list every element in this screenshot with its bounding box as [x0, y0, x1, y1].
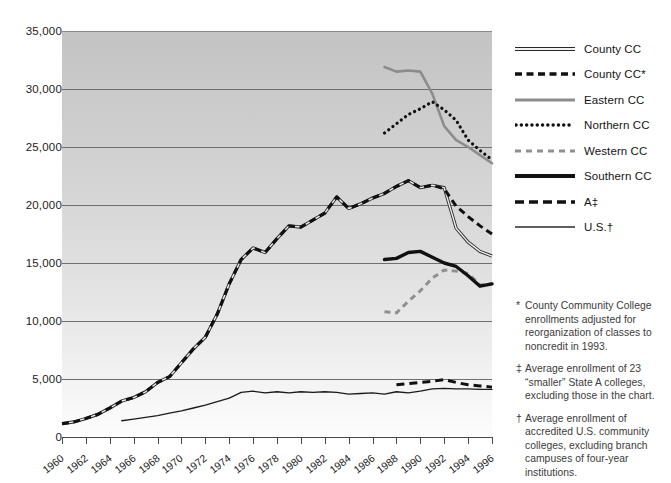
legend-item[interactable]: U.S.† — [515, 215, 665, 241]
legend-item[interactable]: County CC* — [515, 62, 665, 88]
legend-item[interactable]: A‡ — [515, 189, 665, 215]
y-tick-label: 0 — [55, 431, 62, 443]
x-tick — [325, 437, 326, 444]
x-tick-label: 1984 — [327, 452, 353, 476]
x-tick — [492, 437, 493, 444]
dotted-swatch — [515, 119, 575, 131]
series-layer — [62, 31, 492, 437]
footnote-marker: ‡ — [516, 362, 525, 403]
x-tick — [349, 437, 350, 444]
x-tick-label: 1960 — [40, 452, 66, 476]
x-tick-label: 1994 — [446, 452, 472, 476]
chart-figure: 35,00030,00025,00020,00015,00010,0005,00… — [0, 0, 671, 483]
x-tick-label: 1992 — [422, 452, 448, 476]
dashed-long-swatch — [515, 196, 575, 208]
x-tick-label: 1978 — [255, 452, 281, 476]
chart-legend: County CCCounty CC*Eastern CCNorthern CC… — [515, 36, 665, 240]
thin-solid-black-swatch — [515, 221, 575, 233]
y-tick-label: 25,000 — [26, 141, 62, 153]
x-tick-label: 1964 — [88, 452, 114, 476]
x-tick — [253, 437, 254, 444]
x-tick — [301, 437, 302, 444]
chart-footnotes: *County Community College enrollments ad… — [516, 299, 668, 483]
footnote-text: Average enrollment of accredited U.S. co… — [525, 412, 668, 480]
footnote-marker: * — [516, 299, 525, 353]
x-tick-label: 1982 — [303, 452, 329, 476]
x-tick — [277, 437, 278, 444]
legend-item[interactable]: County CC — [515, 36, 665, 62]
x-tick — [134, 437, 135, 444]
series-southern-cc — [385, 251, 493, 286]
thick-solid-black-swatch — [515, 170, 575, 182]
x-tick — [62, 437, 63, 444]
x-tick-label: 1996 — [470, 452, 496, 476]
y-tick-label: 35,000 — [26, 25, 62, 37]
x-tick — [86, 437, 87, 444]
x-tick-label: 1990 — [398, 452, 424, 476]
legend-item[interactable]: Eastern CC — [515, 87, 665, 113]
y-tick-label: 15,000 — [26, 257, 62, 269]
legend-item-label: Western CC — [584, 145, 647, 157]
series-county-cc — [62, 181, 492, 424]
legend-item-label: Southern CC — [584, 170, 652, 182]
y-tick-label: 20,000 — [26, 199, 62, 211]
x-tick — [396, 437, 397, 444]
footnote-marker: † — [516, 412, 525, 480]
legend-item[interactable]: Southern CC — [515, 164, 665, 190]
series-a — [396, 380, 492, 388]
footnote: †Average enrollment of accredited U.S. c… — [516, 412, 668, 480]
x-tick-label: 1976 — [231, 452, 257, 476]
dashed-gray-swatch — [515, 145, 575, 157]
double-hollow-line-swatch — [515, 43, 575, 55]
legend-item-label: County CC* — [584, 68, 646, 80]
solid-gray-swatch — [515, 94, 575, 106]
x-tick-label: 1972 — [183, 452, 209, 476]
x-tick — [444, 437, 445, 444]
legend-item-label: U.S.† — [584, 221, 613, 233]
x-tick — [468, 437, 469, 444]
legend-item-label: A‡ — [584, 196, 598, 208]
x-axis-labels: 1960196219641966196819701972197419761978… — [62, 444, 522, 483]
x-tick — [229, 437, 230, 444]
x-tick — [158, 437, 159, 444]
x-tick-label: 1970 — [159, 452, 185, 476]
x-tick — [373, 437, 374, 444]
footnote-text: County Community College enrollments adj… — [525, 299, 668, 353]
x-tick-label: 1966 — [112, 452, 138, 476]
footnote: *County Community College enrollments ad… — [516, 299, 668, 353]
x-tick — [420, 437, 421, 444]
legend-item-label: Northern CC — [584, 119, 650, 131]
x-tick — [110, 437, 111, 444]
plot-area — [62, 31, 492, 437]
x-tick — [181, 437, 182, 444]
series-county-cc — [62, 181, 492, 424]
series-u-s — [122, 388, 492, 420]
line-chart: 35,00030,00025,00020,00015,00010,0005,00… — [0, 0, 500, 483]
x-tick-label: 1986 — [351, 452, 377, 476]
legend-item-label: Eastern CC — [584, 94, 644, 106]
legend-item[interactable]: Western CC — [515, 138, 665, 164]
y-tick-label: 10,000 — [26, 315, 62, 327]
footnote-text: Average enrollment of 23 “smaller” State… — [525, 362, 668, 403]
legend-item-label: County CC — [584, 43, 641, 55]
x-tick-label: 1980 — [279, 452, 305, 476]
footnote: ‡Average enrollment of 23 “smaller” Stat… — [516, 362, 668, 403]
y-tick-label: 5,000 — [32, 373, 62, 385]
x-tick-label: 1962 — [64, 452, 90, 476]
x-tick-label: 1968 — [136, 452, 162, 476]
legend-item[interactable]: Northern CC — [515, 113, 665, 139]
x-tick — [205, 437, 206, 444]
x-tick-label: 1974 — [207, 452, 233, 476]
dashed-heavy-swatch — [515, 68, 575, 80]
y-tick-label: 30,000 — [26, 83, 62, 95]
series-western-cc — [385, 270, 493, 313]
x-tick-label: 1988 — [374, 452, 400, 476]
